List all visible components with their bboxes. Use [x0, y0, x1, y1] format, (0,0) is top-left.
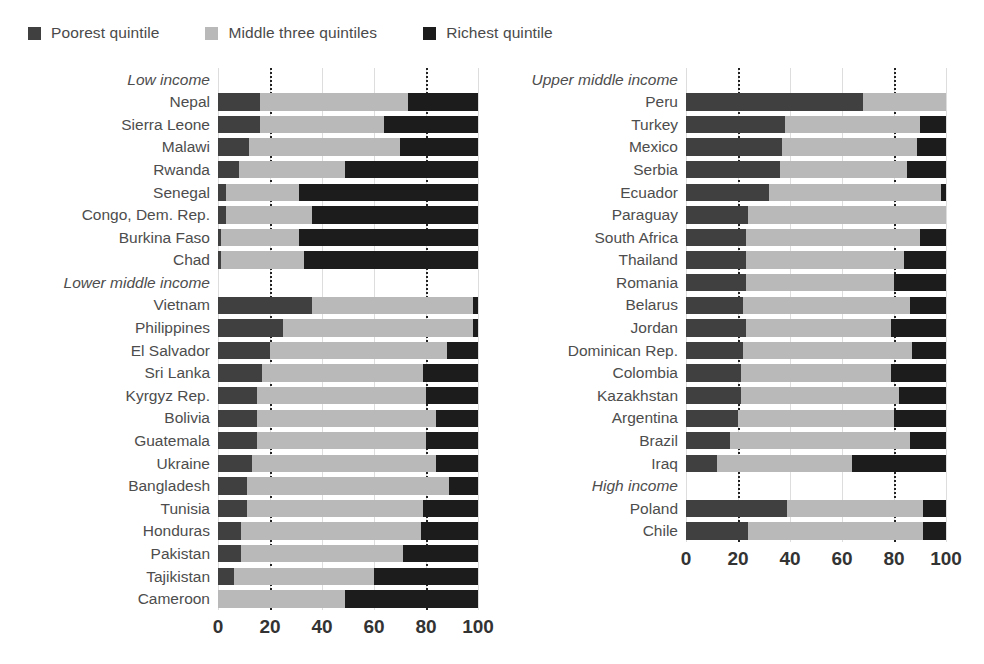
bar-row[interactable]: El Salvador	[10, 339, 490, 362]
stacked-bar[interactable]	[686, 342, 946, 359]
bar-row[interactable]: Argentina	[500, 407, 974, 430]
bar-row[interactable]: Burkina Faso	[10, 226, 490, 249]
segment-richest	[899, 387, 946, 404]
segment-poorest	[686, 229, 746, 246]
stacked-bar[interactable]	[218, 364, 478, 381]
stacked-bar[interactable]	[686, 116, 946, 133]
segment-richest	[912, 342, 946, 359]
segment-middle	[260, 93, 408, 110]
stacked-bar[interactable]	[218, 455, 478, 472]
stacked-bar[interactable]	[686, 319, 946, 336]
bar-row[interactable]: Ukraine	[10, 452, 490, 475]
stacked-bar[interactable]	[218, 161, 478, 178]
bar-row-label: Nepal	[10, 94, 218, 110]
stacked-bar[interactable]	[218, 184, 478, 201]
stacked-bar[interactable]	[686, 410, 946, 427]
bar-row[interactable]: Vietnam	[10, 294, 490, 317]
stacked-bar[interactable]	[218, 387, 478, 404]
segment-richest	[421, 522, 478, 539]
stacked-bar[interactable]	[218, 229, 478, 246]
stacked-bar[interactable]	[218, 116, 478, 133]
bar-row[interactable]: Thailand	[500, 249, 974, 272]
bar-row[interactable]: Colombia	[500, 362, 974, 385]
segment-middle	[782, 138, 917, 155]
bar-row[interactable]: Bolivia	[10, 407, 490, 430]
bar-row[interactable]: Sierra Leone	[10, 113, 490, 136]
bar-row[interactable]: Cameroon	[10, 588, 490, 611]
stacked-bar[interactable]	[218, 568, 478, 585]
stacked-bar[interactable]	[218, 319, 478, 336]
bar-row[interactable]: Honduras	[10, 520, 490, 543]
bar-row[interactable]: Turkey	[500, 113, 974, 136]
stacked-bar[interactable]	[218, 342, 478, 359]
bar-row[interactable]: Guatemala	[10, 430, 490, 453]
bar-row[interactable]: Jordan	[500, 317, 974, 340]
stacked-bar[interactable]	[686, 364, 946, 381]
bar-row[interactable]: Belarus	[500, 294, 974, 317]
stacked-bar[interactable]	[218, 297, 478, 314]
stacked-bar[interactable]	[686, 251, 946, 268]
stacked-bar[interactable]	[218, 93, 478, 110]
segment-middle	[743, 297, 909, 314]
stacked-bar[interactable]	[686, 432, 946, 449]
segment-richest	[384, 116, 478, 133]
bar-row[interactable]: Brazil	[500, 430, 974, 453]
bar-row[interactable]: Peru	[500, 91, 974, 114]
bar-row[interactable]: Chad	[10, 249, 490, 272]
stacked-bar[interactable]	[218, 410, 478, 427]
bar-row[interactable]: Sri Lanka	[10, 362, 490, 385]
bar-row[interactable]: Kyrgyz Rep.	[10, 384, 490, 407]
bar-row[interactable]: Congo, Dem. Rep.	[10, 204, 490, 227]
stacked-bar[interactable]	[218, 138, 478, 155]
bar-track	[218, 204, 478, 227]
stacked-bar[interactable]	[218, 522, 478, 539]
stacked-bar[interactable]	[218, 432, 478, 449]
bar-row[interactable]: Tajikistan	[10, 565, 490, 588]
bar-row[interactable]: Bangladesh	[10, 475, 490, 498]
bar-row[interactable]: Iraq	[500, 452, 974, 475]
stacked-bar[interactable]	[686, 93, 946, 110]
bar-row[interactable]: Ecuador	[500, 181, 974, 204]
stacked-bar[interactable]	[686, 455, 946, 472]
bar-track	[686, 339, 946, 362]
segment-poorest	[686, 364, 741, 381]
segment-middle	[257, 387, 426, 404]
bar-row[interactable]: Kazakhstan	[500, 384, 974, 407]
segment-poorest	[218, 93, 260, 110]
bar-row[interactable]: Rwanda	[10, 158, 490, 181]
bar-track	[218, 181, 478, 204]
stacked-bar[interactable]	[686, 229, 946, 246]
stacked-bar[interactable]	[686, 522, 946, 539]
stacked-bar[interactable]	[686, 500, 946, 517]
bar-row[interactable]: Philippines	[10, 317, 490, 340]
stacked-bar[interactable]	[218, 545, 478, 562]
stacked-bar[interactable]	[686, 297, 946, 314]
stacked-bar[interactable]	[686, 387, 946, 404]
stacked-bar[interactable]	[218, 590, 478, 607]
bar-row[interactable]: Chile	[500, 520, 974, 543]
stacked-bar[interactable]	[218, 206, 478, 223]
bar-row[interactable]: Serbia	[500, 158, 974, 181]
segment-poorest	[686, 522, 748, 539]
bar-row[interactable]: Dominican Rep.	[500, 339, 974, 362]
stacked-bar[interactable]	[218, 477, 478, 494]
stacked-bar[interactable]	[686, 206, 946, 223]
bar-row[interactable]: Nepal	[10, 91, 490, 114]
stacked-bar[interactable]	[686, 184, 946, 201]
stacked-bar[interactable]	[686, 161, 946, 178]
bar-row[interactable]: Pakistan	[10, 542, 490, 565]
stacked-bar[interactable]	[218, 251, 478, 268]
stacked-bar[interactable]	[218, 500, 478, 517]
group-label: Lower middle income	[10, 275, 218, 291]
stacked-bar[interactable]	[686, 138, 946, 155]
bar-row[interactable]: Paraguay	[500, 204, 974, 227]
bar-row[interactable]: Tunisia	[10, 497, 490, 520]
stacked-bar[interactable]	[686, 274, 946, 291]
bar-row[interactable]: South Africa	[500, 226, 974, 249]
segment-middle	[730, 432, 909, 449]
bar-row[interactable]: Poland	[500, 497, 974, 520]
bar-row[interactable]: Mexico	[500, 136, 974, 159]
bar-row[interactable]: Romania	[500, 271, 974, 294]
bar-row[interactable]: Senegal	[10, 181, 490, 204]
bar-row[interactable]: Malawi	[10, 136, 490, 159]
